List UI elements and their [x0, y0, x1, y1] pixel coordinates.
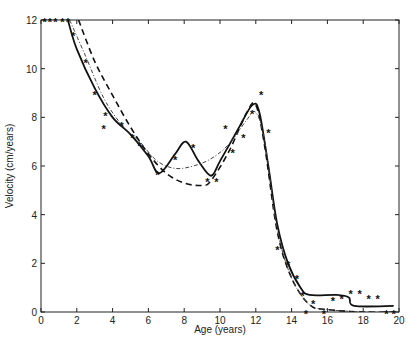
x-tick-label: 14 [286, 315, 298, 326]
data-point: * [286, 259, 291, 271]
data-point: * [205, 176, 210, 188]
data-point: * [357, 288, 362, 300]
data-point: * [340, 293, 345, 305]
y-tick-label: 8 [31, 112, 37, 123]
data-point: * [311, 298, 316, 310]
data-point: * [266, 127, 271, 139]
x-tick-label: 18 [358, 315, 370, 326]
x-tick-label: 6 [146, 315, 152, 326]
x-tick-label: 12 [250, 315, 262, 326]
data-point: * [173, 154, 178, 166]
data-point: * [241, 132, 246, 144]
data-point: * [331, 295, 336, 307]
data-point: * [84, 57, 89, 69]
y-axis-label: Velocity (cm/years) [4, 124, 15, 208]
data-point: * [155, 169, 160, 181]
data-point: * [103, 110, 108, 122]
x-tick-label: 2 [74, 315, 80, 326]
data-point: * [384, 308, 389, 320]
y-tick-label: 2 [31, 258, 37, 269]
x-tick-label: 8 [181, 315, 187, 326]
x-axis-label: Age (years) [194, 324, 246, 335]
data-point: * [322, 308, 327, 320]
data-point: * [295, 273, 300, 285]
data-point: * [259, 89, 264, 101]
data-point: * [93, 89, 98, 101]
data-point: * [137, 140, 142, 152]
data-point: * [366, 293, 371, 305]
data-point: * [349, 288, 354, 300]
data-point: * [250, 108, 255, 120]
data-point: * [102, 123, 107, 135]
data-point: * [66, 16, 71, 28]
data-point: * [53, 16, 58, 28]
plot-area: *************************************** [42, 16, 399, 320]
data-point: * [214, 176, 219, 188]
data-point: * [191, 142, 196, 154]
y-tick-label: 10 [26, 64, 38, 75]
data-point: * [275, 244, 280, 256]
data-point: * [42, 16, 47, 28]
data-point: * [375, 293, 380, 305]
y-tick-label: 0 [31, 307, 37, 318]
x-tick-label: 0 [38, 315, 44, 326]
y-tick-label: 6 [31, 161, 37, 172]
data-point: * [391, 308, 396, 320]
velocity-chart: 02468101214161820024681012 *************… [0, 0, 419, 351]
dashed-fit-line [79, 20, 399, 312]
y-tick-label: 12 [26, 15, 38, 26]
data-point: * [304, 308, 309, 320]
data-point: * [60, 16, 65, 28]
data-point: * [223, 123, 228, 135]
y-tick-label: 4 [31, 210, 37, 221]
data-point: * [230, 147, 235, 159]
data-point: * [48, 16, 53, 28]
solid-fit-line [68, 20, 394, 307]
data-point: * [130, 132, 135, 144]
data-point: * [300, 290, 305, 302]
data-point: * [119, 120, 124, 132]
dashdot-fit-line [70, 20, 399, 312]
x-tick-label: 4 [110, 315, 116, 326]
data-point: * [71, 30, 76, 42]
